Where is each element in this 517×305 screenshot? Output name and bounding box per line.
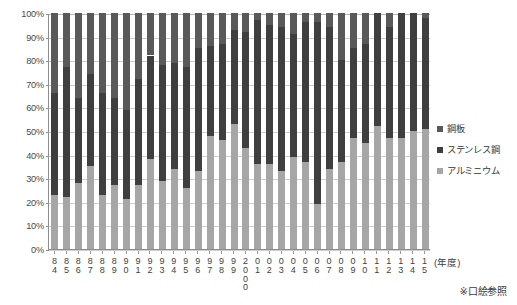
bar-segment[interactable] xyxy=(171,169,178,249)
bar-segment[interactable] xyxy=(362,143,369,249)
bar-segment[interactable] xyxy=(398,13,405,138)
bar-segment[interactable] xyxy=(278,171,285,249)
bar-segment[interactable] xyxy=(111,98,118,185)
bar-column[interactable] xyxy=(302,13,309,249)
bar-segment[interactable] xyxy=(350,138,357,249)
bar-segment[interactable] xyxy=(183,13,190,67)
bar-column[interactable] xyxy=(266,13,273,249)
bar-segment[interactable] xyxy=(63,13,70,67)
bar-segment[interactable] xyxy=(123,199,130,249)
bar-column[interactable] xyxy=(51,13,58,249)
bar-segment[interactable] xyxy=(338,13,345,60)
bar-segment[interactable] xyxy=(422,13,429,18)
bar-segment[interactable] xyxy=(231,13,238,30)
bar-column[interactable] xyxy=(278,13,285,249)
bar-segment[interactable] xyxy=(266,13,273,25)
bar-segment[interactable] xyxy=(135,79,142,185)
bar-column[interactable] xyxy=(159,13,166,249)
bar-segment[interactable] xyxy=(159,13,166,65)
bar-segment[interactable] xyxy=(111,185,118,249)
bar-segment[interactable] xyxy=(135,13,142,79)
bar-segment[interactable] xyxy=(278,27,285,171)
bar-segment[interactable] xyxy=(254,20,261,164)
legend-item[interactable]: 鋼板 xyxy=(437,118,517,139)
bar-column[interactable] xyxy=(254,13,261,249)
bar-segment[interactable] xyxy=(75,183,82,249)
bar-segment[interactable] xyxy=(75,98,82,183)
bar-segment[interactable] xyxy=(51,195,58,249)
bar-segment[interactable] xyxy=(338,162,345,249)
bar-segment[interactable] xyxy=(314,22,321,204)
bar-segment[interactable] xyxy=(195,13,202,48)
bar-segment[interactable] xyxy=(87,13,94,74)
bar-column[interactable] xyxy=(290,13,297,249)
bar-segment[interactable] xyxy=(171,13,178,63)
bar-segment[interactable] xyxy=(51,13,58,93)
bar-segment[interactable] xyxy=(219,44,226,141)
bar-column[interactable] xyxy=(374,13,381,249)
bar-column[interactable] xyxy=(135,13,142,249)
bar-column[interactable] xyxy=(422,13,429,249)
bar-segment[interactable] xyxy=(195,171,202,249)
bar-segment[interactable] xyxy=(314,13,321,22)
bar-segment[interactable] xyxy=(422,129,429,249)
bar-segment[interactable] xyxy=(386,13,393,27)
bar-column[interactable] xyxy=(314,13,321,249)
bar-segment[interactable] xyxy=(362,13,369,44)
bar-segment[interactable] xyxy=(207,13,214,46)
bar-segment[interactable] xyxy=(266,164,273,249)
bar-column[interactable] xyxy=(219,13,226,249)
bar-column[interactable] xyxy=(87,13,94,249)
legend-item[interactable]: ステンレス鋼 xyxy=(437,139,517,160)
bar-segment[interactable] xyxy=(219,140,226,249)
bar-segment[interactable] xyxy=(386,27,393,138)
bar-segment[interactable] xyxy=(123,110,130,200)
bar-column[interactable] xyxy=(147,13,154,249)
bar-segment[interactable] xyxy=(219,13,226,44)
bar-column[interactable] xyxy=(63,13,70,249)
bar-segment[interactable] xyxy=(302,13,309,22)
bar-segment[interactable] xyxy=(350,48,357,138)
bar-segment[interactable] xyxy=(123,13,130,110)
bar-segment[interactable] xyxy=(374,13,381,126)
bar-segment[interactable] xyxy=(302,22,309,161)
bar-segment[interactable] xyxy=(290,34,297,157)
bar-column[interactable] xyxy=(242,13,249,249)
bar-column[interactable] xyxy=(350,13,357,249)
bar-segment[interactable] xyxy=(302,162,309,249)
bar-segment[interactable] xyxy=(159,65,166,181)
bar-segment[interactable] xyxy=(326,13,333,27)
bar-segment[interactable] xyxy=(159,181,166,249)
bar-column[interactable] xyxy=(398,13,405,249)
bar-segment[interactable] xyxy=(183,67,190,187)
bar-segment[interactable] xyxy=(111,13,118,98)
bar-segment[interactable] xyxy=(87,74,94,166)
bar-column[interactable] xyxy=(231,13,238,249)
bar-segment[interactable] xyxy=(51,93,58,194)
bar-segment[interactable] xyxy=(266,25,273,164)
bar-segment[interactable] xyxy=(242,148,249,249)
bar-segment[interactable] xyxy=(195,48,202,171)
bar-segment[interactable] xyxy=(207,136,214,249)
bar-column[interactable] xyxy=(195,13,202,249)
bar-segment[interactable] xyxy=(422,18,429,129)
bar-segment[interactable] xyxy=(326,27,333,169)
bar-segment[interactable] xyxy=(231,30,238,124)
bar-segment[interactable] xyxy=(350,13,357,48)
bar-segment[interactable] xyxy=(147,56,154,160)
bar-column[interactable] xyxy=(75,13,82,249)
bar-segment[interactable] xyxy=(231,124,238,249)
bar-segment[interactable] xyxy=(99,93,106,194)
legend-item[interactable]: アルミニウム xyxy=(437,160,517,181)
bar-column[interactable] xyxy=(410,13,417,249)
bar-column[interactable] xyxy=(338,13,345,249)
bar-segment[interactable] xyxy=(207,46,214,136)
bar-segment[interactable] xyxy=(314,204,321,249)
bar-segment[interactable] xyxy=(410,131,417,249)
bar-segment[interactable] xyxy=(147,13,154,55)
bar-column[interactable] xyxy=(123,13,130,249)
bar-column[interactable] xyxy=(326,13,333,249)
bar-segment[interactable] xyxy=(290,13,297,34)
bar-column[interactable] xyxy=(171,13,178,249)
bar-segment[interactable] xyxy=(254,164,261,249)
